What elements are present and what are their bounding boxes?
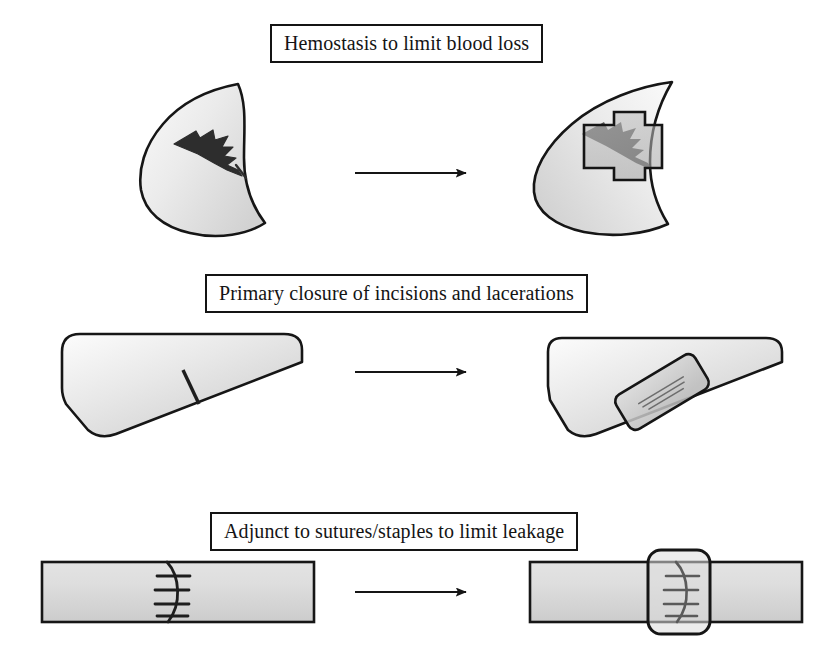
crescent-organ-body-treated: [534, 82, 672, 235]
wedge-organ-incised: [62, 334, 302, 436]
crescent-organ-lacerated: [140, 84, 265, 236]
tubular-organ-treated: [530, 550, 802, 634]
crescent-organ-treated: [534, 82, 672, 235]
row-primary-closure-illustration: [62, 334, 782, 436]
wedge-organ-body-treated: [548, 338, 782, 436]
caption-hemostasis: Hemostasis to limit blood loss: [270, 24, 543, 63]
row-hemostasis-illustration: [140, 82, 672, 236]
patch-incision-hatching: [639, 377, 689, 412]
row-adjunct-sutures-illustration: [42, 550, 802, 634]
wedge-organ-body: [62, 334, 302, 436]
wrap-sealant-patch: [648, 550, 710, 634]
wedge-organ-treated: [548, 338, 782, 436]
tubular-organ-body: [42, 562, 314, 622]
surgical-sealant-figure: Hemostasis to limit blood loss Primary c…: [0, 0, 822, 666]
caption-adjunct-sutures: Adjunct to sutures/staples to limit leak…: [210, 512, 578, 551]
suture-line-with-staples: [155, 562, 190, 622]
laceration-under-patch: [582, 122, 652, 170]
figure-illustrations: [0, 0, 822, 666]
tubular-organ-sutured: [42, 562, 314, 622]
angled-rectangular-sealant-patch: [612, 351, 711, 433]
tubular-organ-body-treated: [530, 562, 802, 622]
crescent-organ-body: [140, 84, 265, 236]
suture-curve-treated: [676, 562, 687, 622]
cross-shaped-sealant-patch: [584, 112, 662, 180]
suture-line-under-patch: [664, 562, 699, 622]
caption-primary-closure: Primary closure of incisions and lacerat…: [205, 274, 588, 313]
laceration-tail: [236, 165, 246, 178]
suture-curve: [167, 562, 178, 622]
laceration-jagged-tear: [174, 130, 242, 176]
incision-line: [183, 370, 199, 404]
